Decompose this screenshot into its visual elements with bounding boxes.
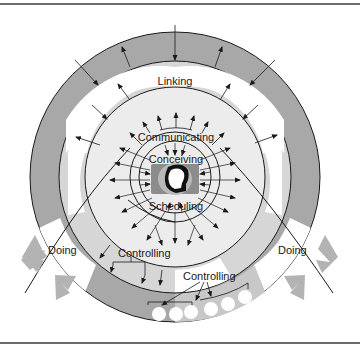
label-controlling-outer: Controlling xyxy=(183,270,236,282)
label-linking: Linking xyxy=(158,75,193,87)
big-arrow-icon xyxy=(316,235,338,273)
label-conceiving: Conceiving xyxy=(149,153,203,165)
concentric-process-diagram: Linking Communicating Conceiving Schedul… xyxy=(0,0,360,347)
center-head xyxy=(151,163,199,195)
big-arrow-icon xyxy=(21,245,47,271)
big-arrow-icon xyxy=(55,275,76,300)
label-scheduling: Scheduling xyxy=(149,200,203,212)
label-communicating: Communicating xyxy=(138,131,214,143)
label-controlling-inner: Controlling xyxy=(118,247,171,259)
label-doing-right: Doing xyxy=(278,244,307,256)
label-doing-left: Doing xyxy=(48,244,77,256)
big-arrow-icon xyxy=(284,275,305,300)
